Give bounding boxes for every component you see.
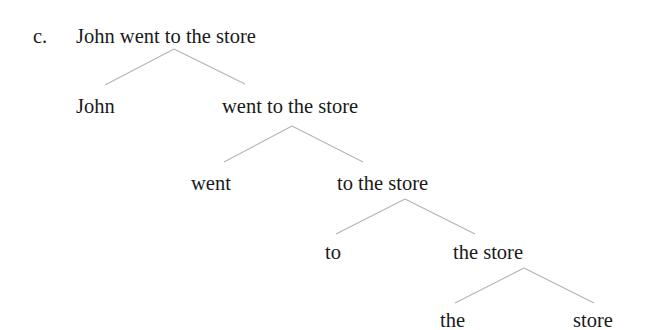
node-l1-left: John	[76, 96, 115, 117]
edge-l2-left	[336, 199, 405, 234]
node-l3-right: the store	[453, 242, 523, 263]
edge-l1-right	[292, 126, 363, 162]
node-l4-right: store	[573, 310, 613, 330]
edge-l2-right	[405, 199, 475, 234]
node-l4-left: the	[440, 310, 465, 330]
edge-l1-left	[224, 126, 292, 162]
node-root: John went to the store	[76, 26, 256, 47]
node-l3-left: to	[325, 242, 341, 263]
tree-edges	[0, 0, 659, 330]
edge-l3-right	[524, 268, 594, 303]
edge-root-left	[105, 49, 174, 85]
example-label: c.	[33, 26, 47, 47]
edge-l3-left	[455, 268, 524, 303]
node-l2-left: went	[191, 173, 231, 194]
node-l1-right: went to the store	[222, 96, 358, 117]
node-l2-right: to the store	[337, 173, 428, 194]
edge-root-right	[174, 49, 245, 84]
